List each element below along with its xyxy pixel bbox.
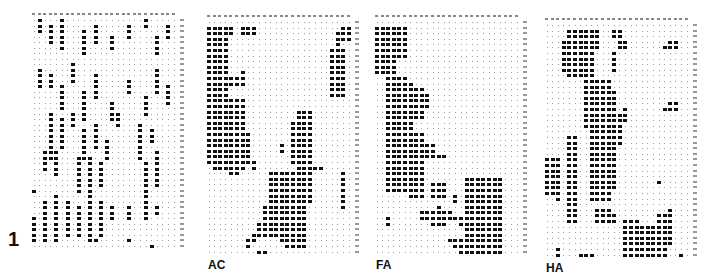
figure-number: 1 bbox=[8, 228, 19, 251]
panel-label-fa: FA bbox=[376, 258, 391, 272]
panel-label-ac: AC bbox=[208, 258, 225, 272]
panel-label-ha: HA bbox=[546, 261, 563, 275]
